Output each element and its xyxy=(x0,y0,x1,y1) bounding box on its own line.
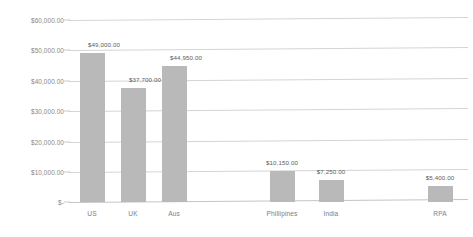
x-tick-label-us: US xyxy=(87,210,96,217)
x-axis: US UK Aus Phillipines India RPA xyxy=(0,0,473,237)
x-tick-label-india: India xyxy=(324,210,339,217)
bar-chart: $60,000.00 $50,000.00 $40,000.00 $30,000… xyxy=(0,0,473,237)
x-tick-label-aus: Aus xyxy=(168,210,180,217)
x-tick-label-phillipines: Phillipines xyxy=(267,210,298,217)
x-tick-label-rpa: RPA xyxy=(433,210,446,217)
x-tick-label-uk: UK xyxy=(128,210,137,217)
